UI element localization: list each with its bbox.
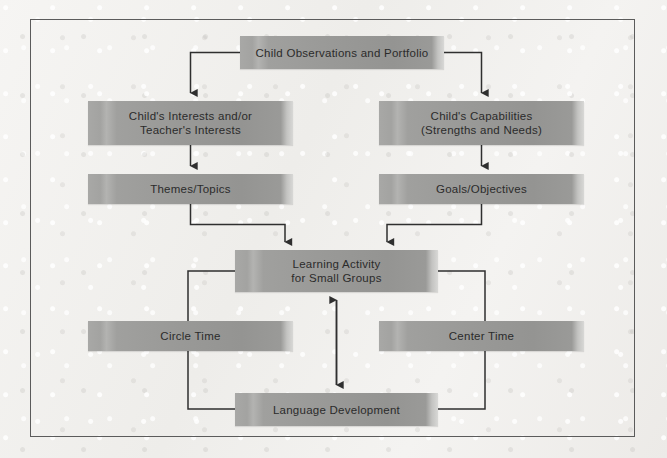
node-circle-time[interactable]: Circle Time [88,321,293,351]
node-childs-interests-or-teachers-interests[interactable]: Child's Interests and/or Teacher's Inter… [88,101,293,145]
flowchart-diagram: Child Observations and Portfolio Child's… [0,0,667,458]
node-label: Circle Time [160,329,220,343]
edge-observations-capabilities [444,53,482,94]
node-themes-topics[interactable]: Themes/Topics [88,174,293,204]
edge-themes-learning [191,204,286,242]
node-childs-capabilities[interactable]: Child's Capabilities (Strengths and Need… [379,101,584,145]
edge-observations-interests [191,53,241,94]
node-label: Language Development [273,403,400,417]
node-label: Child Observations and Portfolio [256,46,429,60]
node-label: Child's Interests and/or Teacher's Inter… [129,109,252,137]
node-label: Themes/Topics [150,182,231,196]
node-label: Child's Capabilities (Strengths and Need… [421,109,542,137]
node-label: Center Time [449,329,514,343]
node-label: Goals/Objectives [436,182,527,196]
node-child-observations-and-portfolio[interactable]: Child Observations and Portfolio [240,36,444,69]
node-center-time[interactable]: Center Time [379,321,584,351]
node-label: Learning Activity for Small Groups [291,257,381,285]
edge-goals-learning [387,204,482,242]
node-goals-objectives[interactable]: Goals/Objectives [379,174,584,204]
node-language-development[interactable]: Language Development [235,393,438,426]
node-learning-activity-for-small-groups[interactable]: Learning Activity for Small Groups [235,250,438,292]
